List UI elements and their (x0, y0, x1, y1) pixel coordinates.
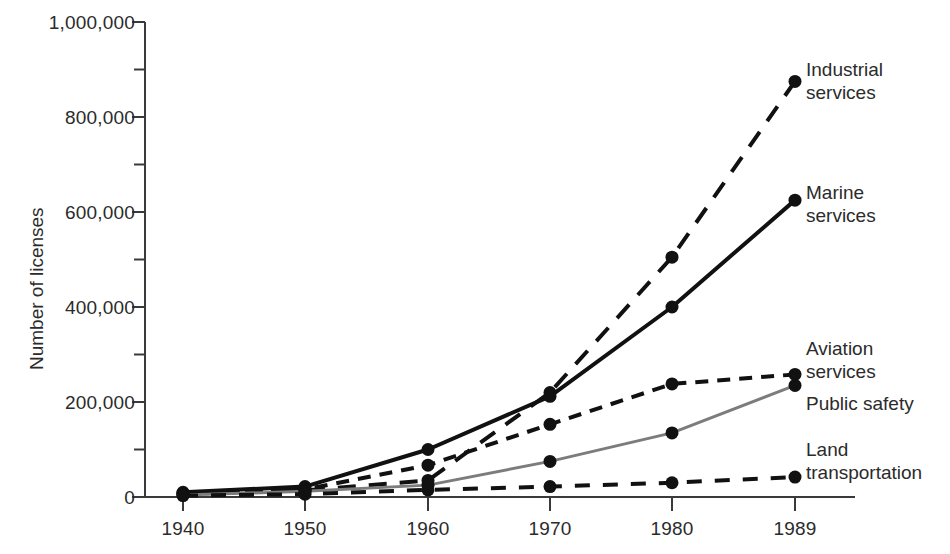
y-tick-label-1000000: 1,000,000 (10, 12, 135, 34)
data-point (544, 480, 557, 493)
series-label-land-transportation: Land transportation (806, 438, 922, 484)
x-tick-label-1960: 1960 (378, 518, 478, 540)
data-point (544, 390, 557, 403)
y-tick-label-600000: 600,000 (10, 202, 135, 224)
x-tick-label-1940: 1940 (133, 518, 233, 540)
series-label-aviation-services: Aviation services (806, 337, 876, 383)
series-label-public-safety: Public safety (806, 392, 914, 415)
y-tick-label-400000: 400,000 (10, 297, 135, 319)
series-label-industrial-services: Industrial services (806, 58, 883, 104)
data-point (789, 194, 802, 207)
data-point (666, 251, 679, 264)
data-point (789, 471, 802, 484)
data-point (544, 418, 557, 431)
x-tick-label-1980: 1980 (622, 518, 722, 540)
x-tick-label-1950: 1950 (255, 518, 355, 540)
chart-figure: Number of licenses 0 200,000 400,000 600… (0, 0, 950, 554)
series-line-industrial-services (183, 81, 795, 493)
data-point (299, 488, 312, 501)
series-label-marine-services: Marine services (806, 181, 876, 227)
series-line-public-safety (183, 385, 795, 495)
data-point (422, 483, 435, 496)
data-point (789, 75, 802, 88)
y-tick-label-200000: 200,000 (10, 392, 135, 414)
data-series (183, 81, 795, 495)
data-point (666, 426, 679, 439)
data-point (666, 377, 679, 390)
data-point (422, 443, 435, 456)
data-point (177, 489, 190, 502)
data-point (422, 459, 435, 472)
axes-lines (132, 22, 855, 511)
x-tick-label-1989: 1989 (745, 518, 845, 540)
y-axis-title: Number of licenses (26, 207, 48, 370)
data-point (789, 379, 802, 392)
data-point (544, 455, 557, 468)
y-tick-label-800000: 800,000 (10, 107, 135, 129)
x-tick-label-1970: 1970 (500, 518, 600, 540)
series-line-marine-services (183, 200, 795, 492)
data-point (666, 476, 679, 489)
y-tick-label-0: 0 (10, 487, 135, 509)
data-point (666, 301, 679, 314)
